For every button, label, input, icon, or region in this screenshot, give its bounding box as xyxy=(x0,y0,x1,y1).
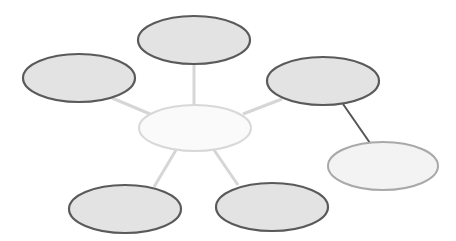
edge-center-top-right xyxy=(243,99,282,114)
node-top[interactable] xyxy=(138,16,250,64)
node-center[interactable] xyxy=(139,105,251,151)
edge-center-bottom-left xyxy=(154,150,176,187)
edge-center-bottom-right xyxy=(214,150,238,185)
diagram-canvas xyxy=(0,0,456,241)
node-bottom-left[interactable] xyxy=(69,185,181,233)
node-top-left[interactable] xyxy=(23,54,135,102)
node-bottom-right[interactable] xyxy=(216,183,328,231)
edge-center-top-left xyxy=(112,98,150,114)
edge-top-right-far-right xyxy=(343,104,370,143)
node-far-right[interactable] xyxy=(328,142,438,190)
nodes xyxy=(23,16,438,233)
node-top-right[interactable] xyxy=(267,57,379,105)
mind-map-diagram xyxy=(0,0,456,241)
